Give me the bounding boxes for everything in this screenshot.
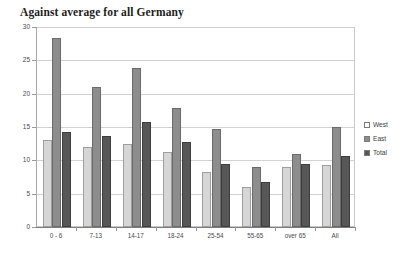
chart-title: Against average for all Germany <box>20 6 184 18</box>
bar-west[interactable] <box>83 147 92 227</box>
bar-west[interactable] <box>123 144 132 227</box>
bar-group <box>242 28 270 227</box>
y-axis-tick-label: 15 <box>4 124 30 131</box>
bar-east[interactable] <box>172 108 181 227</box>
bar-group <box>202 28 230 227</box>
bar-total[interactable] <box>142 122 151 227</box>
x-axis-tick <box>315 227 316 231</box>
x-axis-tick <box>156 227 157 231</box>
x-axis-tick <box>355 227 356 231</box>
bar-total[interactable] <box>221 164 230 227</box>
bar-group <box>282 28 310 227</box>
legend-label: East <box>373 136 386 143</box>
chart-legend: WestEastTotal <box>364 122 388 157</box>
bar-west[interactable] <box>282 167 291 227</box>
legend-item-west[interactable]: West <box>364 122 388 129</box>
x-axis-tick <box>235 227 236 231</box>
bar-west[interactable] <box>322 165 331 227</box>
y-axis-tick <box>32 94 36 95</box>
bar-east[interactable] <box>252 167 261 227</box>
y-axis-tick-label: 25 <box>4 57 30 64</box>
bar-group <box>322 28 350 227</box>
legend-item-east[interactable]: East <box>364 136 388 143</box>
legend-label: West <box>373 122 388 129</box>
bar-total[interactable] <box>341 156 350 227</box>
bar-east[interactable] <box>212 129 221 227</box>
x-axis-tick <box>275 227 276 231</box>
legend-label: Total <box>373 150 387 157</box>
legend-swatch-icon <box>364 150 370 156</box>
x-axis-tick <box>196 227 197 231</box>
bar-total[interactable] <box>62 132 71 227</box>
bar-west[interactable] <box>202 172 211 227</box>
y-axis-tick <box>32 160 36 161</box>
chart-container: Against average for all Germany 05101520… <box>0 0 408 255</box>
bar-total[interactable] <box>261 182 270 227</box>
y-axis-tick-label: 20 <box>4 91 30 98</box>
y-axis-tick <box>32 27 36 28</box>
bar-east[interactable] <box>132 68 141 227</box>
bar-east[interactable] <box>92 87 101 227</box>
x-axis-tick <box>116 227 117 231</box>
bar-total[interactable] <box>301 164 310 227</box>
bar-series-layer <box>37 28 354 227</box>
bar-group <box>43 28 71 227</box>
legend-swatch-icon <box>364 122 370 128</box>
bar-group <box>163 28 191 227</box>
bar-east[interactable] <box>292 154 301 227</box>
y-axis-tick-label: 10 <box>4 157 30 164</box>
bar-west[interactable] <box>242 187 251 227</box>
legend-swatch-icon <box>364 136 370 142</box>
bar-east[interactable] <box>52 38 61 227</box>
legend-item-total[interactable]: Total <box>364 150 388 157</box>
bar-total[interactable] <box>182 142 191 227</box>
bar-west[interactable] <box>163 152 172 227</box>
y-axis-tick <box>32 227 36 228</box>
bar-group <box>123 28 151 227</box>
bar-west[interactable] <box>43 140 52 227</box>
y-axis-tick <box>32 60 36 61</box>
x-axis-tick-label: All <box>305 233 365 239</box>
bar-total[interactable] <box>102 136 111 227</box>
x-axis-tick <box>76 227 77 231</box>
y-axis-tick <box>32 194 36 195</box>
bar-east[interactable] <box>332 127 341 227</box>
y-axis-tick <box>32 127 36 128</box>
y-axis-tick-label: 5 <box>4 191 30 198</box>
bar-group <box>83 28 111 227</box>
y-axis-tick-label: 30 <box>4 24 30 31</box>
y-axis-tick-label: 0 <box>4 224 30 231</box>
